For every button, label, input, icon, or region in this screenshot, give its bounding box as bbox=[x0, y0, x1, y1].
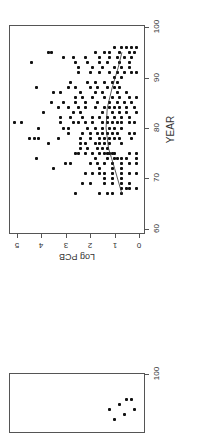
data-point bbox=[74, 86, 77, 89]
data-point bbox=[77, 152, 80, 155]
data-point bbox=[94, 157, 97, 160]
data-point bbox=[111, 96, 114, 99]
data-point bbox=[135, 46, 138, 49]
data-point bbox=[103, 162, 106, 165]
data-point bbox=[84, 172, 87, 175]
data-point bbox=[133, 121, 136, 124]
data-point bbox=[81, 132, 84, 135]
data-point bbox=[130, 46, 133, 49]
data-point bbox=[57, 106, 60, 109]
data-point bbox=[120, 142, 123, 145]
data-point bbox=[116, 71, 119, 74]
data-point bbox=[106, 116, 109, 119]
data-point bbox=[113, 137, 116, 140]
data-point bbox=[84, 142, 87, 145]
data-point bbox=[128, 116, 131, 119]
data-point bbox=[128, 172, 131, 175]
data-point bbox=[135, 172, 138, 175]
data-point bbox=[79, 91, 82, 94]
data-point bbox=[125, 157, 128, 160]
data-point bbox=[52, 91, 55, 94]
data-point bbox=[96, 162, 99, 165]
data-point bbox=[67, 86, 70, 89]
year-tick-80 bbox=[145, 128, 149, 129]
data-point bbox=[86, 81, 89, 84]
data-point bbox=[108, 56, 111, 59]
data-point bbox=[106, 157, 109, 160]
data-point bbox=[67, 106, 70, 109]
data-point bbox=[111, 192, 114, 195]
data-point bbox=[135, 96, 138, 99]
data-point bbox=[89, 182, 92, 185]
data-point bbox=[113, 127, 116, 130]
data-point bbox=[57, 137, 60, 140]
pcb-tick-0 bbox=[139, 234, 140, 238]
data-point bbox=[128, 132, 131, 135]
data-point bbox=[101, 127, 104, 130]
pcb-tick-label: 4 bbox=[36, 241, 46, 250]
year-tick-label: 100 bbox=[152, 17, 161, 37]
data-point bbox=[72, 111, 75, 114]
data-point bbox=[50, 51, 53, 54]
data-point bbox=[89, 86, 92, 89]
data-point bbox=[118, 86, 121, 89]
data-point bbox=[111, 81, 114, 84]
data-point bbox=[125, 46, 128, 49]
data-point bbox=[130, 71, 133, 74]
data-point bbox=[111, 182, 114, 185]
year-tick-label: 60 bbox=[152, 219, 161, 239]
data-point bbox=[111, 111, 114, 114]
data-point bbox=[118, 51, 121, 54]
pcb-tick-label: 3 bbox=[61, 241, 71, 250]
year-tick-60 bbox=[145, 229, 149, 230]
data-point bbox=[103, 137, 106, 140]
data-point bbox=[106, 147, 109, 150]
data-point bbox=[108, 137, 111, 140]
data-point bbox=[101, 66, 104, 69]
data-point bbox=[123, 101, 126, 104]
data-point bbox=[111, 132, 114, 135]
data-point bbox=[30, 61, 33, 64]
data-point bbox=[94, 81, 97, 84]
data-point bbox=[108, 51, 111, 54]
data-point bbox=[133, 132, 136, 135]
data-point bbox=[130, 137, 133, 140]
data-point bbox=[135, 71, 138, 74]
data-point bbox=[128, 61, 131, 64]
data-point bbox=[116, 81, 119, 84]
data-point bbox=[72, 121, 75, 124]
data-point bbox=[64, 162, 67, 165]
pcb-tick-4 bbox=[41, 234, 42, 238]
data-point bbox=[135, 152, 138, 155]
data-point bbox=[106, 132, 109, 135]
plot-frame bbox=[9, 373, 145, 433]
data-point bbox=[50, 101, 53, 104]
data-point bbox=[74, 96, 77, 99]
data-point bbox=[116, 101, 119, 104]
data-point bbox=[94, 91, 97, 94]
data-point bbox=[118, 137, 121, 140]
year-tick-label: 70 bbox=[152, 168, 161, 188]
data-point bbox=[118, 96, 121, 99]
data-point bbox=[125, 398, 128, 401]
data-point bbox=[135, 157, 138, 160]
data-point bbox=[120, 46, 123, 49]
data-point bbox=[67, 127, 70, 130]
data-point bbox=[89, 71, 92, 74]
data-point bbox=[79, 147, 82, 150]
data-point bbox=[133, 51, 136, 54]
data-point bbox=[74, 61, 77, 64]
data-point bbox=[91, 96, 94, 99]
data-point bbox=[111, 177, 114, 180]
data-point bbox=[94, 106, 97, 109]
data-point bbox=[84, 106, 87, 109]
data-point bbox=[116, 132, 119, 135]
data-point bbox=[133, 106, 136, 109]
year-tick-label: 80 bbox=[152, 118, 161, 138]
data-point bbox=[116, 157, 119, 160]
data-point bbox=[28, 137, 31, 140]
data-point bbox=[79, 137, 82, 140]
data-point bbox=[69, 162, 72, 165]
data-point bbox=[118, 403, 121, 406]
year-tick-70 bbox=[145, 178, 149, 179]
